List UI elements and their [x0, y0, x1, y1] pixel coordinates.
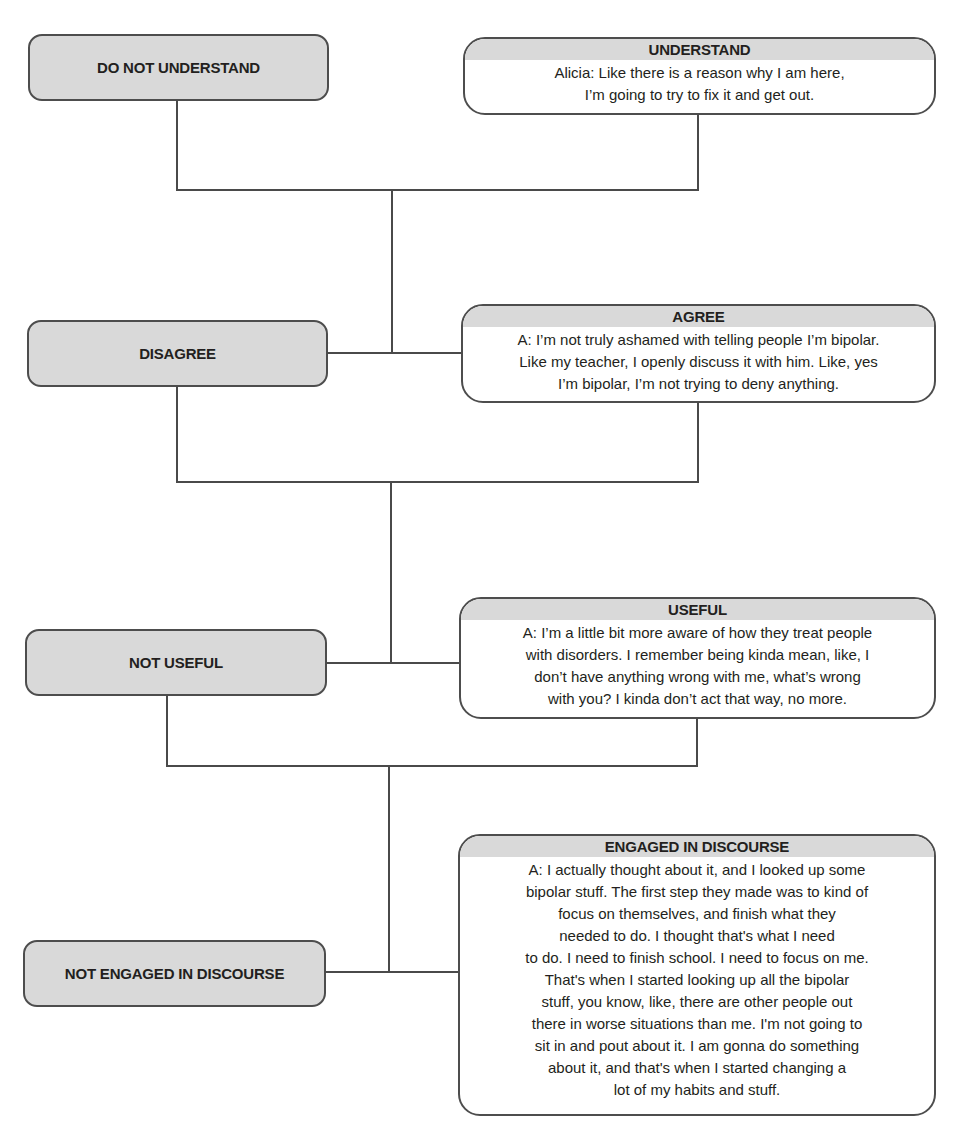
quote-line: Alicia: Like there is a reason why I am … — [475, 62, 924, 84]
connector-line — [176, 481, 699, 483]
quote-line: A: I’m a little bit more aware of how th… — [471, 622, 924, 644]
node-agree: AGREE A: I’m not truly ashamed with tell… — [461, 304, 936, 403]
node-header: USEFUL — [461, 599, 934, 620]
node-quote: A: I’m not truly ashamed with telling pe… — [463, 327, 934, 401]
connector-line — [696, 718, 698, 767]
quote-line: with you? I kinda don’t act that way, no… — [471, 688, 924, 710]
quote-line: I’m bipolar, I’m not trying to deny anyt… — [473, 373, 924, 395]
quote-line: sit in and pout about it. I am gonna do … — [470, 1035, 924, 1057]
quote-line: lot of my habits and stuff. — [470, 1079, 924, 1101]
node-not-engaged-in-discourse: NOT ENGAGED IN DISCOURSE — [23, 940, 326, 1007]
quote-line: Like my teacher, I openly discuss it wit… — [473, 351, 924, 373]
connector-line — [388, 765, 390, 973]
connector-line — [166, 695, 168, 767]
node-do-not-understand: DO NOT UNDERSTAND — [28, 34, 329, 101]
quote-line: I’m going to try to fix it and get out. — [475, 84, 924, 106]
connector-line — [326, 662, 461, 664]
connector-line — [325, 971, 460, 973]
node-header: UNDERSTAND — [465, 39, 934, 60]
node-label: NOT ENGAGED IN DISCOURSE — [65, 965, 284, 982]
connector-line — [391, 189, 393, 354]
connector-line — [176, 386, 178, 483]
quote-line: That's when I started looking up all the… — [470, 969, 924, 991]
node-label: NOT USEFUL — [129, 654, 223, 671]
node-quote: Alicia: Like there is a reason why I am … — [465, 60, 934, 112]
quote-line: to do. I need to finish school. I need t… — [470, 947, 924, 969]
quote-line: bipolar stuff. The first step they made … — [470, 881, 924, 903]
quote-line: about it, and that's when I started chan… — [470, 1057, 924, 1079]
quote-line: stuff, you know, like, there are other p… — [470, 991, 924, 1013]
connector-line — [697, 402, 699, 483]
node-label: DO NOT UNDERSTAND — [97, 59, 260, 76]
node-understand: UNDERSTAND Alicia: Like there is a reaso… — [463, 37, 936, 115]
quote-line: A: I actually thought about it, and I lo… — [470, 859, 924, 881]
quote-line: don’t have anything wrong with me, what’… — [471, 666, 924, 688]
node-not-useful: NOT USEFUL — [25, 629, 327, 696]
connector-line — [697, 114, 699, 191]
node-quote: A: I’m a little bit more aware of how th… — [461, 620, 934, 716]
node-header: AGREE — [463, 306, 934, 327]
node-quote: A: I actually thought about it, and I lo… — [460, 857, 934, 1107]
node-label: DISAGREE — [139, 345, 216, 362]
quote-line: A: I’m not truly ashamed with telling pe… — [473, 329, 924, 351]
connector-line — [176, 100, 178, 191]
quote-line: with disorders. I remember being kinda m… — [471, 644, 924, 666]
connector-line — [390, 481, 392, 664]
node-engaged-in-discourse: ENGAGED IN DISCOURSE A: I actually thoug… — [458, 834, 936, 1116]
quote-line: focus on themselves, and finish what the… — [470, 903, 924, 925]
quote-line: there in worse situations than me. I'm n… — [470, 1013, 924, 1035]
quote-line: needed to do. I thought that's what I ne… — [470, 925, 924, 947]
node-disagree: DISAGREE — [27, 320, 328, 387]
connector-line — [327, 352, 463, 354]
connector-line — [176, 189, 699, 191]
connector-line — [166, 765, 698, 767]
node-useful: USEFUL A: I’m a little bit more aware of… — [459, 597, 936, 719]
node-header: ENGAGED IN DISCOURSE — [460, 836, 934, 857]
